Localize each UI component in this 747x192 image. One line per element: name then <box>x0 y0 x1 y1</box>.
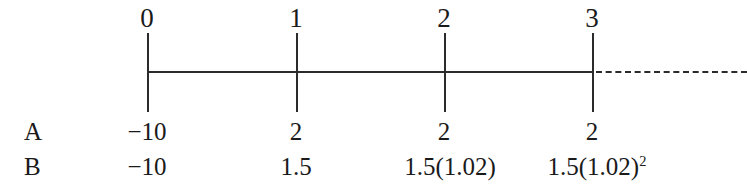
timeline-figure: 0 1 2 3 A −10 2 2 2 B −10 1.5 1.5(1.02) … <box>0 0 747 192</box>
timeline-axis-dashed-continuation <box>596 71 747 73</box>
tick-mark-period-2 <box>444 33 446 112</box>
period-label-3: 3 <box>562 3 622 33</box>
row-b-value-period-0-base: −10 <box>127 153 166 180</box>
period-label-2: 2 <box>414 3 474 33</box>
row-b-value-period-3-exponent: 2 <box>639 153 646 169</box>
row-a-value-period-3: 2 <box>497 118 687 146</box>
row-b-value-period-2-base: 1.5(1.02) <box>404 153 496 180</box>
period-label-1: 1 <box>266 3 326 33</box>
tick-mark-period-0 <box>147 33 149 112</box>
timeline-axis-solid <box>147 71 593 73</box>
row-b-value-period-1-base: 1.5 <box>280 153 311 180</box>
row-b-value-period-3: 1.5(1.02)2 <box>502 153 692 181</box>
row-b-value-period-3-base: 1.5(1.02) <box>548 153 640 180</box>
tick-mark-period-1 <box>296 33 298 112</box>
period-label-0: 0 <box>117 3 177 33</box>
tick-mark-period-3 <box>592 33 594 112</box>
